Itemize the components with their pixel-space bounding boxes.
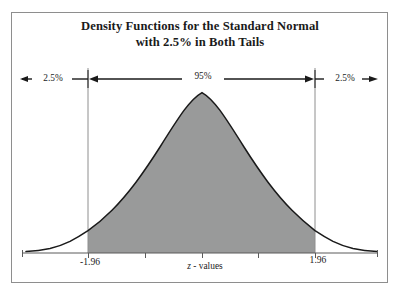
left-tail-percent-label: 2.5% bbox=[34, 73, 72, 83]
x-axis-title: z - values bbox=[160, 261, 250, 271]
plot-svg bbox=[0, 0, 400, 295]
axis-tick-label-lower: -1.96 bbox=[68, 256, 112, 267]
center-percent-label: 95% bbox=[184, 71, 222, 81]
shaded-area-95 bbox=[88, 93, 315, 253]
x-axis-title-rest: - values bbox=[191, 261, 223, 271]
normal-distribution-plot: 2.5% 95% 2.5% -1.96 1.96 z - values bbox=[0, 0, 400, 295]
axis-tick-label-upper: 1.96 bbox=[296, 254, 340, 265]
right-tail-percent-label: 2.5% bbox=[326, 73, 364, 83]
